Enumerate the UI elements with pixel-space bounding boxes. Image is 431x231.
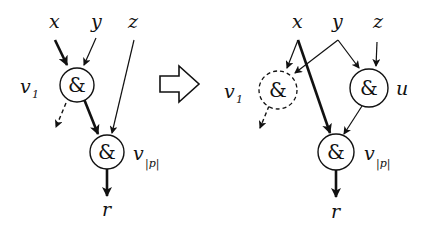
and-symbol: & <box>360 76 378 100</box>
right-gate-v1-dashed: & <box>259 71 297 109</box>
right-input-x: x <box>292 10 303 32</box>
right-label-v1-sub: 1 <box>236 93 243 106</box>
left-label-vp-sub: |p| <box>145 157 159 171</box>
left-input-x: x <box>49 10 60 32</box>
right-edge-y-u <box>338 40 359 68</box>
left-input-y: y <box>90 10 102 32</box>
and-symbol: & <box>68 73 86 97</box>
left-input-z: z <box>127 10 139 32</box>
left-circuit: x y z & v 1 & v |p| r <box>20 10 159 220</box>
left-edge-x-v1 <box>55 40 67 65</box>
left-edge-z-vp <box>112 40 134 133</box>
right-label-vp-sub: |p| <box>376 157 390 171</box>
right-edge-v1-dashed <box>260 106 269 128</box>
right-gate-vp: & <box>318 134 354 170</box>
left-edge-y-v1 <box>84 38 96 65</box>
left-edge-v1-dashed <box>56 103 66 127</box>
right-edge-u-vp <box>344 106 362 134</box>
right-circuit: x y z & v 1 & u & v |p| r <box>224 10 408 222</box>
right-gate-u: & <box>350 69 388 107</box>
left-gate-vp: & <box>90 135 124 169</box>
right-output-r: r <box>331 200 342 222</box>
and-symbol: & <box>327 140 345 164</box>
right-input-z: z <box>372 10 384 32</box>
left-edge-v1-vp <box>84 99 98 134</box>
and-symbol: & <box>98 140 116 164</box>
right-input-y: y <box>331 10 343 32</box>
left-label-v1: v <box>20 75 31 97</box>
right-edge-y-v1 <box>295 40 338 73</box>
and-symbol: & <box>269 78 287 102</box>
right-label-vp: v <box>364 142 375 164</box>
circuit-diagram: x y z & v 1 & v |p| r x y z <box>0 0 431 231</box>
hollow-right-arrow-icon <box>160 66 199 102</box>
right-edge-z-u <box>376 42 377 66</box>
left-label-vp: v <box>133 142 144 164</box>
right-label-v1: v <box>224 80 235 102</box>
right-edge-x-v1 <box>287 40 298 68</box>
left-label-v1-sub: 1 <box>32 88 39 101</box>
right-edge-x-vp <box>298 40 330 133</box>
left-output-r: r <box>102 198 113 220</box>
left-gate-v1: & <box>60 68 94 102</box>
right-label-u: u <box>396 77 408 99</box>
